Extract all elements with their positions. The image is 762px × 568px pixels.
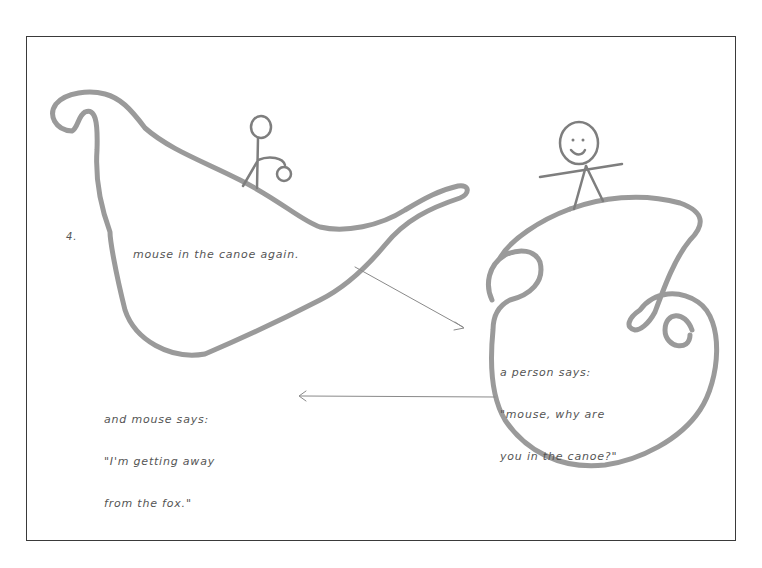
arrow-to-island <box>355 267 463 327</box>
mouse-speech-line: from the fox." <box>104 497 215 511</box>
person-speech-line: a person says: <box>500 366 617 380</box>
page-number: 4. <box>66 230 77 244</box>
caption: mouse in the canoe again. <box>133 248 299 262</box>
person-speech-line: "mouse, why are <box>500 408 617 422</box>
mouse-speech-line: and mouse says: <box>104 413 215 427</box>
mouse-tail-icon <box>277 167 291 181</box>
person-speech: a person says: "mouse, why are you in th… <box>500 338 617 478</box>
arrows <box>299 267 495 401</box>
smile-icon <box>571 150 585 155</box>
person-speech-line: you in the canoe?" <box>500 450 617 464</box>
person-figure <box>540 122 622 209</box>
arrow-to-mouse-text <box>300 396 495 397</box>
canoe-drawing <box>53 92 468 355</box>
mouse-speech: and mouse says: "I'm getting away from t… <box>104 385 215 525</box>
person-head-icon <box>560 122 598 164</box>
mouse-head-icon <box>251 116 271 138</box>
mouse-speech-line: "I'm getting away <box>104 455 215 469</box>
mouse-figure <box>243 116 291 188</box>
